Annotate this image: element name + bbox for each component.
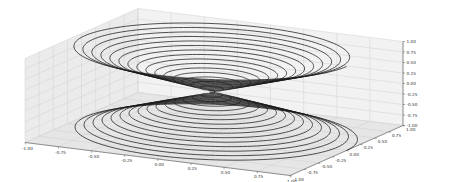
x-tick-label: -0.75 — [55, 150, 66, 155]
y-tick-label: 0.00 — [350, 152, 360, 157]
y-tick-label: -1.00 — [293, 177, 304, 182]
x-tick-label: 0.25 — [188, 166, 198, 171]
x-tick-label: 0.75 — [254, 174, 264, 179]
z-axis-ticks: 1.000.750.500.250.00-0.25-0.50-0.75-1.00 — [403, 39, 418, 128]
x-tick-label: -0.50 — [88, 154, 99, 159]
z-tick-label: 0.75 — [407, 50, 417, 55]
z-tick-label: -0.25 — [407, 92, 418, 97]
y-tick-label: 0.25 — [364, 145, 374, 150]
z-tick-label: 0.50 — [407, 60, 417, 65]
x-tick-label: 0.50 — [221, 170, 231, 175]
y-tick-label: -0.25 — [335, 158, 346, 163]
z-tick-label: 1.00 — [407, 39, 417, 44]
z-tick-label: -0.75 — [407, 113, 418, 118]
3d-plot: -1.00-0.75-0.50-0.250.000.250.500.751.00… — [0, 0, 465, 182]
z-tick-label: 0.25 — [407, 71, 417, 76]
x-tick-label: 0.00 — [155, 162, 165, 167]
y-tick-label: -0.75 — [307, 170, 318, 175]
z-tick-label: -1.00 — [407, 123, 418, 128]
z-tick-label: -0.50 — [407, 102, 418, 107]
z-tick-label: 0.00 — [407, 81, 417, 86]
x-tick-label: -0.25 — [121, 158, 132, 163]
x-tick-label: -1.00 — [22, 146, 33, 151]
y-tick-label: -0.50 — [321, 164, 332, 169]
y-tick-label: 0.75 — [392, 133, 402, 138]
y-tick-label: 0.50 — [378, 139, 388, 144]
